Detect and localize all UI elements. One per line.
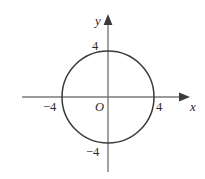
x-axis-tick-label-negative: −4 bbox=[43, 101, 56, 114]
x-axis-arrowhead bbox=[179, 93, 190, 102]
coordinate-plane-svg bbox=[0, 0, 205, 179]
origin-label: O bbox=[95, 101, 104, 114]
y-axis-tick-label-negative: −4 bbox=[86, 146, 99, 159]
y-axis-tick-label-positive: 4 bbox=[92, 40, 98, 53]
x-axis-label: x bbox=[190, 100, 196, 113]
y-axis-arrowhead bbox=[104, 14, 113, 25]
circle-graph-figure: y x O 4 −4 4 −4 bbox=[0, 0, 205, 179]
y-axis-label: y bbox=[95, 14, 101, 27]
x-axis-tick-label-positive: 4 bbox=[156, 101, 162, 114]
